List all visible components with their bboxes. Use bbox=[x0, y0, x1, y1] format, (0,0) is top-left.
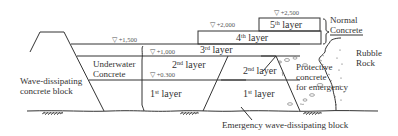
wave-dissipating-block-label: Wave-dissipating concrete block bbox=[20, 76, 85, 96]
emergency-block-left-edge bbox=[203, 56, 228, 111]
ground-hatch-center bbox=[180, 112, 199, 115]
ground-hatch-left bbox=[42, 112, 63, 115]
protective-concrete-label: Protective concrete for emergency bbox=[296, 62, 349, 92]
layer-3-label: 3rd layer bbox=[200, 44, 233, 55]
elevation-2000: ▽ +2,000 bbox=[210, 21, 235, 28]
layer-1-left-label: 1st layer bbox=[150, 88, 182, 99]
layer-4-label: 4th layer bbox=[236, 32, 269, 43]
normal-concrete-label: Normal Concrete bbox=[330, 15, 362, 35]
rubble-rock-dots bbox=[336, 49, 344, 100]
normal-concrete-brace bbox=[323, 19, 329, 44]
rubble-rock-label: Rubble Rock bbox=[356, 48, 384, 68]
elevation-1500: ▽ +1,500 bbox=[112, 36, 137, 43]
ground-line bbox=[27, 111, 378, 112]
layer-2-right-label: 2nd layer bbox=[243, 65, 277, 76]
elevation-0300: ▽ +0.300 bbox=[150, 71, 175, 78]
breakwater-cross-section-diagram: ▽ +2,500 ▽ +2,000 ▽ +1,500 ▽ +1,000 ▽ +0… bbox=[0, 0, 398, 136]
ground-hatch-right bbox=[303, 112, 322, 115]
layer-1-right-label: 1st layer bbox=[243, 88, 275, 99]
layer-2-left-label: 2nd layer bbox=[172, 59, 206, 70]
layer-5-label: 5th layer bbox=[270, 19, 303, 30]
elevation-2500: ▽ +2,500 bbox=[274, 9, 299, 16]
elevation-1000: ▽ +1,000 bbox=[150, 48, 175, 55]
emergency-block-leader-line bbox=[241, 107, 252, 120]
emergency-block-label: Emergency wave-dissipating block bbox=[222, 120, 349, 130]
underwater-concrete-label: Underwater Concrete bbox=[93, 59, 138, 79]
